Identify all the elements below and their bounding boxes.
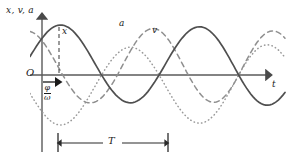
origin-label: O [26, 68, 34, 78]
curve-label-acceleration: a [119, 19, 124, 28]
x-axis-label: t [272, 80, 276, 89]
phase-offset-fraction: φ ω [44, 84, 51, 103]
shm-waveform-figure: x, v, a O t x a v T φ ω [0, 0, 291, 166]
y-axis-label: x, v, a [6, 6, 34, 15]
phase-denominator: ω [44, 94, 51, 102]
curve-label-velocity: v [152, 26, 157, 35]
curve-displacement [30, 25, 285, 105]
curve-label-displacement: x [62, 27, 67, 36]
phase-numerator: φ [44, 84, 51, 92]
period-label: T [108, 136, 115, 146]
curve-velocity [30, 29, 285, 103]
